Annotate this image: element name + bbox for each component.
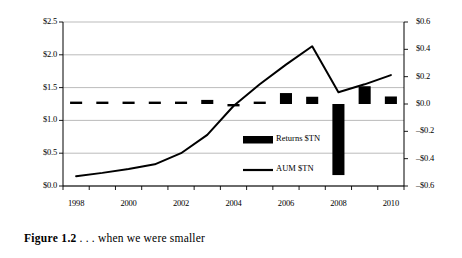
x-axis-tick-label: 2002 bbox=[159, 198, 203, 208]
bar-returns bbox=[201, 100, 213, 104]
caption-number: Figure 1.2 bbox=[24, 232, 77, 244]
bar-returns bbox=[359, 86, 371, 104]
x-axis-tick-label: 2010 bbox=[369, 198, 413, 208]
chart-canvas bbox=[0, 0, 462, 258]
bar-returns bbox=[175, 102, 187, 104]
y-axis-left-tick-label: $2.5 bbox=[5, 16, 57, 26]
figure-caption: Figure 1.2 . . . when we were smaller bbox=[24, 232, 444, 244]
bar-returns bbox=[332, 104, 344, 175]
figure-container: $0.0$0.5$1.0$1.5$2.0$2.5–$0.6–$0.4–$0.2$… bbox=[0, 0, 462, 258]
y-axis-right-tick-label: –$0.4 bbox=[416, 153, 462, 163]
x-axis-tick-label: 2000 bbox=[107, 198, 151, 208]
legend-swatch-returns bbox=[243, 136, 273, 144]
legend-label-returns: Returns $TN bbox=[276, 133, 320, 143]
y-axis-right-tick-label: $0.6 bbox=[416, 16, 462, 26]
y-axis-left-tick-label: $1.0 bbox=[5, 114, 57, 124]
x-axis-tick-label: 2008 bbox=[316, 198, 360, 208]
y-axis-left-tick-label: $2.0 bbox=[5, 49, 57, 59]
bar-returns bbox=[70, 102, 82, 104]
x-axis-tick-label: 2004 bbox=[212, 198, 256, 208]
bar-returns bbox=[149, 102, 161, 104]
bar-returns bbox=[280, 93, 292, 104]
x-axis-tick-label: 2006 bbox=[264, 198, 308, 208]
y-axis-right-tick-label: $0.0 bbox=[416, 98, 462, 108]
y-axis-right-tick-label: $0.2 bbox=[416, 71, 462, 81]
bar-returns bbox=[306, 97, 318, 104]
y-axis-right-tick-label: –$0.2 bbox=[416, 125, 462, 135]
caption-text: . . . when we were smaller bbox=[80, 232, 206, 244]
y-axis-right-tick-label: $0.4 bbox=[416, 43, 462, 53]
y-axis-left-tick-label: $1.5 bbox=[5, 82, 57, 92]
bar-returns bbox=[123, 102, 135, 104]
bar-returns bbox=[96, 102, 108, 104]
bar-returns bbox=[385, 96, 397, 104]
y-axis-left-tick-label: $0.0 bbox=[5, 180, 57, 190]
y-axis-right-tick-label: –$0.6 bbox=[416, 180, 462, 190]
legend-label-aum: AUM $TN bbox=[276, 163, 314, 173]
bar-returns bbox=[254, 102, 266, 104]
y-axis-left-tick-label: $0.5 bbox=[5, 147, 57, 157]
x-axis-tick-label: 1998 bbox=[54, 198, 98, 208]
